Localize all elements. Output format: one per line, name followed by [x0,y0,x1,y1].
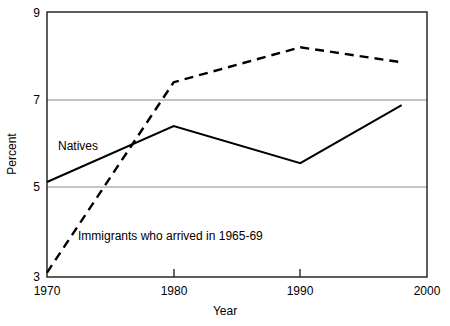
ytick-label-3: 3 [10,271,40,283]
series-annotation-immigrants: Immigrants who arrived in 1965-69 [78,230,263,243]
chart-figure: 9 7 5 3 1970 1980 1990 2000 Percent Year… [0,0,450,326]
line-chart-plot [0,0,450,326]
xtick-label-2000: 2000 [404,285,450,297]
x-axis-title: Year [0,305,450,317]
series-annotation-natives: Natives [58,140,98,153]
xtick-label-1980: 1980 [151,285,197,297]
ytick-label-9: 9 [10,7,40,19]
xtick-label-1990: 1990 [277,285,323,297]
y-axis-title: Percent [6,124,18,184]
xtick-label-1970: 1970 [24,285,70,297]
ytick-label-7: 7 [10,94,40,106]
